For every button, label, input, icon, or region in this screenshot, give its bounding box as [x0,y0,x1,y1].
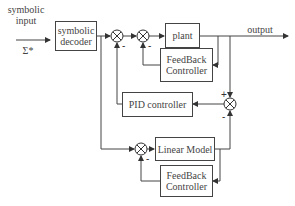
input-label-line1: symbolic [4,4,48,15]
input-label: symbolic input [4,4,48,26]
plant-block: plant [165,23,200,48]
output-label: output [240,24,280,35]
pid-controller-label: PID controller [129,99,187,110]
junction4-minus-sign: - [146,154,149,164]
feedback-controller-top-line2: Controller [166,65,207,76]
junction3-plus-sign: + [221,90,227,100]
feedback-controller-top-line1: FeedBack [166,54,207,65]
symbolic-decoder-line2: decoder [58,36,95,47]
symbolic-decoder-line1: symbolic [58,25,95,36]
junction2-minus-sign: - [148,41,151,51]
input-alphabet-symbol: Σ* [18,45,38,56]
feedback-controller-bottom-block: FeedBack Controller [160,165,213,197]
feedback-controller-top-block: FeedBack Controller [160,48,213,82]
plant-label: plant [173,30,193,41]
feedback-controller-bottom-line1: FeedBack [166,170,207,181]
symbolic-decoder-block: symbolic decoder [55,21,97,51]
pid-controller-block: PID controller [122,92,193,117]
feedback-controller-bottom-line2: Controller [166,181,207,192]
linear-model-block: Linear Model [155,137,215,161]
input-label-line2: input [4,15,48,26]
junction1-minus-sign: - [122,41,125,51]
linear-model-label: Linear Model [158,144,213,155]
junction3-minus-sign: - [222,112,225,122]
